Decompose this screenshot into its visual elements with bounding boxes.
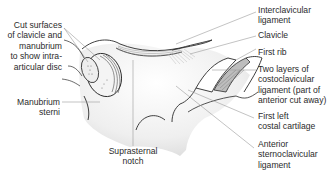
label-line: Manubrium [4, 97, 60, 107]
label-line: First rib [258, 47, 287, 57]
label-line: to show intra- [4, 51, 62, 61]
label-line: ligament (part of [258, 85, 326, 95]
label-line: First left [258, 111, 315, 121]
label-anterior-sternoclavicular-ligament: Anterior sternoclavicular ligament [258, 139, 318, 170]
label-cut-surfaces: Cut surfaces of clavicle and manubrium t… [4, 20, 62, 72]
label-line: Interclavicular [258, 5, 311, 15]
label-line: Suprasternal [103, 146, 163, 156]
label-line: Two layers of [258, 64, 326, 74]
label-first-rib: First rib [258, 47, 287, 57]
label-line: of clavicle and [4, 30, 62, 40]
label-line: articular disc [4, 62, 62, 72]
label-line: notch [103, 156, 163, 166]
label-line: anterior cut away) [258, 95, 326, 105]
label-line: costoclavicular [258, 74, 326, 84]
sternoclavicular-joint-diagram: Cut surfaces of clavicle and manubrium t… [0, 0, 334, 196]
label-line: manubrium [4, 41, 62, 51]
label-clavicle: Clavicle [258, 30, 288, 40]
label-line: Anterior [258, 139, 318, 149]
label-interclavicular-ligament: Interclavicular ligament [258, 5, 311, 26]
label-suprasternal-notch: Suprasternal notch [103, 146, 163, 167]
label-line: ligament [258, 15, 311, 25]
label-line: ligament [258, 160, 318, 170]
label-first-left-costal-cartilage: First left costal cartilage [258, 111, 315, 132]
label-line: costal cartilage [258, 121, 315, 131]
label-line: Cut surfaces [4, 20, 62, 30]
label-costoclavicular-ligament: Two layers of costoclavicular ligament (… [258, 64, 326, 106]
label-line: Clavicle [258, 30, 288, 40]
label-line: sternoclavicular [258, 149, 318, 159]
label-manubrium-sterni: Manubrium sterni [4, 97, 60, 118]
label-line: sterni [4, 107, 60, 117]
